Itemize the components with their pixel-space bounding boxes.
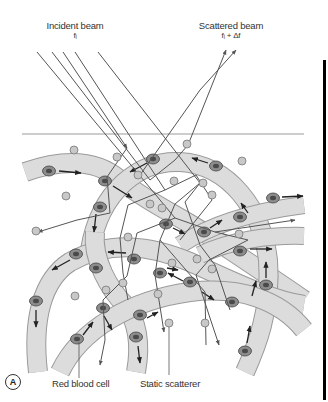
static-scatterer-label: Static scatterer (140, 378, 200, 389)
panel-label: A (5, 374, 21, 390)
page-edge-bar (323, 60, 326, 400)
laser-doppler-diagram (0, 0, 328, 402)
red-blood-cell-label: Red blood cell (52, 378, 109, 389)
